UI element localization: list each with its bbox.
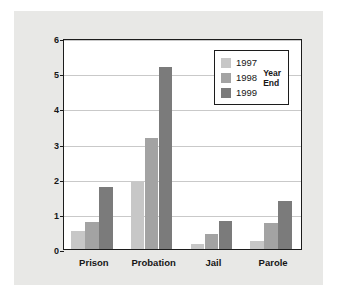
bar bbox=[145, 138, 159, 249]
legend-swatch-icon bbox=[221, 73, 231, 83]
bar bbox=[99, 187, 113, 249]
bar bbox=[219, 221, 233, 249]
bar bbox=[85, 222, 99, 249]
y-axis-tick-label: 1 bbox=[54, 211, 59, 221]
legend-swatch-icon bbox=[221, 88, 231, 98]
y-axis-tick-label: 5 bbox=[54, 70, 59, 80]
y-axis-tick-label: 6 bbox=[54, 35, 59, 45]
bar bbox=[71, 231, 85, 249]
bar bbox=[264, 223, 278, 249]
chart-figure: Estimated Projected Population (in milli… bbox=[14, 11, 323, 285]
x-axis-label: Jail bbox=[205, 257, 221, 268]
bar bbox=[278, 201, 292, 249]
bar bbox=[159, 67, 173, 249]
plot-area: Estimated Projected Population (in milli… bbox=[63, 39, 302, 250]
legend-item: 1997 bbox=[221, 56, 257, 69]
y-axis-tick-label: 2 bbox=[54, 176, 59, 186]
legend: 199719981999 Year End bbox=[214, 50, 289, 105]
legend-label: 1997 bbox=[236, 57, 257, 68]
y-axis-tick-label: 4 bbox=[54, 105, 59, 115]
y-axis-tick-mark bbox=[60, 251, 64, 252]
x-axis-label: Prison bbox=[79, 257, 109, 268]
legend-item: 1999 bbox=[221, 86, 257, 99]
bar bbox=[131, 182, 145, 249]
legend-item: 1998 bbox=[221, 71, 257, 84]
legend-title: Year End bbox=[263, 68, 281, 88]
y-axis-tick-label: 0 bbox=[54, 246, 59, 256]
bar bbox=[205, 234, 219, 249]
x-axis-label: Parole bbox=[259, 257, 288, 268]
legend-entries: 199719981999 bbox=[221, 56, 257, 99]
legend-swatch-icon bbox=[221, 58, 231, 68]
bar bbox=[191, 244, 205, 249]
x-axis-label: Probation bbox=[131, 257, 175, 268]
legend-label: 1998 bbox=[236, 72, 257, 83]
bar bbox=[250, 241, 264, 249]
legend-label: 1999 bbox=[236, 87, 257, 98]
y-axis-tick-label: 3 bbox=[54, 141, 59, 151]
